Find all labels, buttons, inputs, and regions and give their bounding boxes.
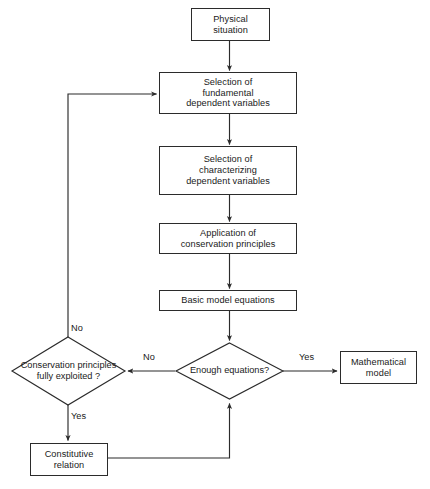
node-enough-equations-line1: Enough equations? <box>190 365 269 375</box>
node-basic-model-equations[interactable]: Basic model equations <box>159 290 297 311</box>
node-mathematical-model-line2: model <box>349 368 408 379</box>
node-physical-situation-line1: Physical <box>211 14 250 25</box>
node-fundamental-variables-line2: fundamental <box>184 88 272 99</box>
edge-label-enough-equations-yes: Yes <box>299 352 314 362</box>
node-characterizing-variables-line2: characterizing <box>184 165 272 176</box>
node-constitutive-relation[interactable]: Constitutive relation <box>30 443 108 476</box>
node-fundamental-variables[interactable]: Selection of fundamental dependent varia… <box>159 72 297 114</box>
node-mathematical-model-line1: Mathematical <box>349 357 408 368</box>
node-mathematical-model[interactable]: Mathematical model <box>340 351 417 384</box>
node-fundamental-variables-line1: Selection of <box>184 77 272 88</box>
node-characterizing-variables-line3: dependent variables <box>184 176 272 187</box>
edge-constitutive-to-enough <box>108 404 230 459</box>
node-constitutive-relation-line2: relation <box>43 460 96 471</box>
node-fundamental-variables-line3: dependent variables <box>184 98 272 109</box>
flowchart-diagram: Physical situation Selection of fundamen… <box>0 0 430 489</box>
node-conservation-exploited[interactable]: Conservation principles fully exploited … <box>12 337 125 405</box>
edge-exploited-no-feedback <box>68 94 157 337</box>
node-physical-situation[interactable]: Physical situation <box>191 8 270 41</box>
node-characterizing-variables[interactable]: Selection of characterizing dependent va… <box>159 146 297 195</box>
node-conservation-exploited-line2: principles <box>77 360 116 370</box>
node-conservation-exploited-line1: Conservation <box>21 360 75 370</box>
edge-label-conservation-exploited-no: No <box>71 323 83 333</box>
node-conservation-principles[interactable]: Application of conservation principles <box>159 223 297 254</box>
node-conservation-principles-line1: Application of <box>179 228 278 239</box>
node-characterizing-variables-line1: Selection of <box>184 154 272 165</box>
node-conservation-principles-line2: conservation principles <box>179 239 278 250</box>
edge-label-conservation-exploited-yes: Yes <box>71 411 86 421</box>
node-basic-model-equations-line1: Basic model equations <box>179 295 277 306</box>
node-constitutive-relation-line1: Constitutive <box>43 449 96 460</box>
edge-label-enough-equations-no: No <box>143 352 155 362</box>
node-conservation-exploited-line4: ? <box>95 371 100 381</box>
node-enough-equations[interactable]: Enough equations? <box>176 343 283 399</box>
node-conservation-exploited-line3: fully exploited <box>37 371 93 381</box>
node-physical-situation-line2: situation <box>211 25 250 36</box>
